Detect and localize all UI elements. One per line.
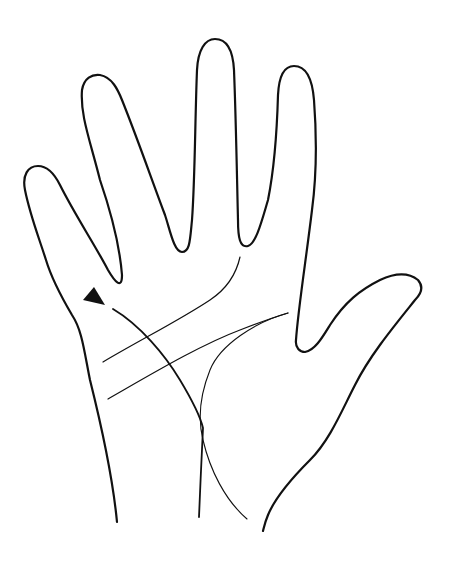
palm-svg xyxy=(0,0,451,569)
palm-diagram xyxy=(0,0,451,569)
background xyxy=(0,0,451,569)
